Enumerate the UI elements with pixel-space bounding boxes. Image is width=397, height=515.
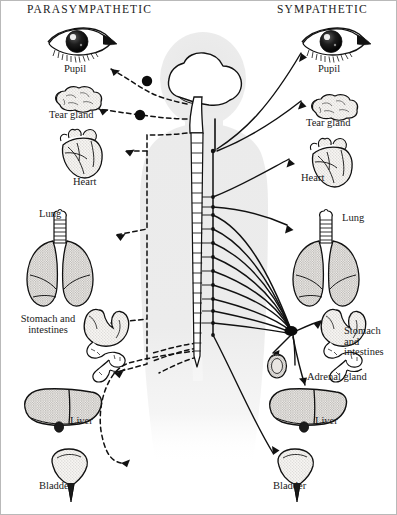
- para-organ-heart: [60, 129, 102, 178]
- label-stomach-intestines-symp: Stomach and intestines: [344, 326, 397, 358]
- symp-organ-adrenal: [268, 354, 287, 378]
- label-lung-para: Lung: [39, 209, 61, 220]
- label-adrenal-gland-symp: Adrenal gland: [307, 372, 367, 383]
- symp-organ-pupil: [302, 28, 371, 62]
- para-organ-bladder: [52, 449, 87, 502]
- label-tear-gland-para: Tear gland: [49, 110, 93, 121]
- organ-illustration-layer: [1, 1, 397, 515]
- symp-organ-bladder: [278, 449, 313, 502]
- heading-sympathetic: SYMPATHETIC: [277, 4, 368, 16]
- label-pupil-symp: Pupil: [318, 64, 340, 75]
- para-organ-pupil: [48, 28, 117, 62]
- label-tear-gland-symp: Tear gland: [306, 118, 350, 129]
- label-heart-para: Heart: [73, 177, 96, 188]
- para-organ-lung: [27, 210, 93, 307]
- label-lung-symp: Lung: [342, 213, 364, 224]
- autonomic-nervous-system-figure: PARASYMPATHETIC SYMPATHETIC Pupil Tear g…: [0, 0, 397, 515]
- label-bladder-para: Bladder: [39, 481, 72, 492]
- label-pupil-para: Pupil: [64, 64, 86, 75]
- label-stomach-intestines-para: Stomach and intestines: [19, 314, 77, 335]
- symp-organ-lung: [293, 210, 359, 307]
- para-organ-stomach: [84, 309, 128, 382]
- label-liver-para: Liver: [70, 416, 93, 427]
- label-liver-symp: Liver: [315, 416, 338, 427]
- label-bladder-symp: Bladder: [273, 481, 306, 492]
- label-heart-symp: Heart: [301, 173, 324, 184]
- heading-parasympathetic: PARASYMPATHETIC: [27, 4, 152, 16]
